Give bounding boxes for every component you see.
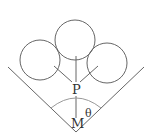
- label-theta: θ: [85, 107, 92, 120]
- left-sphere: [20, 40, 60, 80]
- label-m: M: [71, 116, 84, 131]
- right-sphere: [87, 43, 127, 83]
- three-spheres-in-v-groove-diagram: P M θ: [0, 0, 153, 139]
- left-radius-line: [54, 66, 72, 82]
- label-p: P: [72, 82, 81, 97]
